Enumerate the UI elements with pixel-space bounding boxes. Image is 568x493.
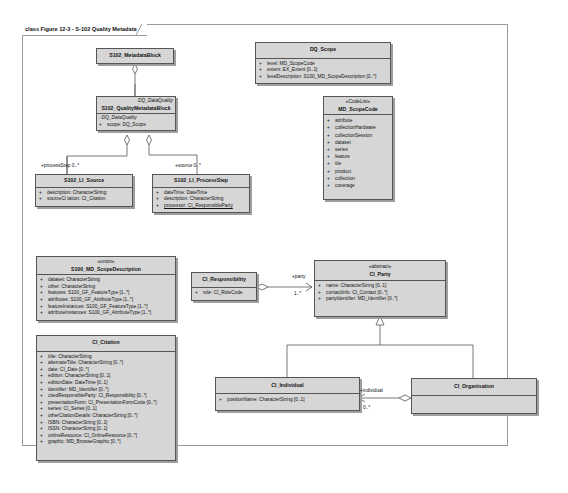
class-ci-responsibility[interactable]: CI_Responsibility +role: CI_RoleCode <box>191 272 257 301</box>
visibility-marker: + <box>327 139 335 146</box>
class-s102-li-processstep[interactable]: S102_LI_ProcessStep +dateTime: DateTime … <box>152 174 250 213</box>
class-attribute: +featureInstances: S100_GF_FeatureType [… <box>40 304 172 311</box>
attribute-text: role: CI_RoleCode <box>203 290 242 295</box>
visibility-marker: + <box>156 196 164 203</box>
attribute-text: processor: CI_ResponsibleParty <box>164 203 233 208</box>
class-ci-organisation[interactable]: CI_Organisation <box>411 378 537 414</box>
visibility-marker: + <box>327 153 335 160</box>
attribute-text: level: MD_ScopeCode <box>267 61 315 66</box>
visibility-marker: + <box>259 74 267 81</box>
class-s100-md-scopedescription[interactable]: «union» S100_MD_ScopeDescription +datase… <box>36 256 176 321</box>
class-attribute: +dataset: CharacterString <box>40 277 172 284</box>
visibility-marker: + <box>40 387 48 394</box>
attribute-text: positionName: CharacterString [0..1] <box>227 397 305 402</box>
attribute-text: title: CharacterString <box>48 354 92 359</box>
class-s102-li-source[interactable]: S102_LI_Source +description: CharacterSt… <box>35 174 133 207</box>
class-attribute: +alternateTitle: CharacterString [0..*] <box>40 360 172 367</box>
class-name: CI_Individual <box>271 382 303 388</box>
class-name: MD_ScopeCode <box>326 106 390 113</box>
class-md-scopecode[interactable]: «CodeList» MD_ScopeCode +attribute +coll… <box>323 96 393 200</box>
enum-literal: +collectionSession <box>327 132 389 139</box>
visibility-marker: + <box>327 160 335 167</box>
attribute-text: attribute <box>335 118 352 123</box>
attribute-text: name: CharacterString [0..1] <box>326 283 386 288</box>
attribute-text: editionDate: DateTime [0..1] <box>48 380 108 385</box>
class-attribute: +attributes: S100_GF_AttributeType [1..*… <box>40 297 172 304</box>
visibility-marker: + <box>327 132 335 139</box>
class-ci-individual[interactable]: CI_Individual +positionName: CharacterSt… <box>215 377 360 411</box>
visibility-marker: + <box>39 190 47 197</box>
class-name: S102_QualityMetadataBlock <box>99 105 173 112</box>
class-attribute: +scope: DQ_Scope <box>99 122 173 129</box>
attribute-text: collectionHardware <box>335 125 376 130</box>
visibility-marker: + <box>40 406 48 413</box>
enum-literal: +series <box>327 146 389 153</box>
attribute-text: contactInfo: CI_Contact [0..*] <box>326 290 387 295</box>
attribute-text: dataset <box>335 140 351 145</box>
attribute-text: features: S100_GF_FeatureType [1..*] <box>48 290 129 295</box>
multiplicity-label-party: 1..* <box>294 291 301 296</box>
attribute-text: description: CharacterString <box>164 196 223 201</box>
visibility-marker: + <box>327 182 335 189</box>
enum-literal: +tile <box>327 160 389 167</box>
class-attribute: +extent: EX_Extent [0..1] <box>259 67 387 74</box>
enum-literal: +collectionHardware <box>327 124 389 131</box>
class-attribute: +dateTime: DateTime <box>156 190 246 197</box>
class-name: S102_MetadataBlock <box>109 52 161 58</box>
class-attribute: +editionDate: DateTime [0..1] <box>40 380 172 387</box>
visibility-marker: + <box>40 297 48 304</box>
visibility-marker: + <box>40 426 48 433</box>
class-attribute: +graphic: MD_BrowseGraphic [0..*] <box>40 439 172 446</box>
role-label-individual: +individual <box>360 388 383 393</box>
attribute-text: collection <box>335 176 355 181</box>
role-label-party: +party <box>292 274 305 279</box>
class-attribute: +features: S100_GF_FeatureType [1..*] <box>40 290 172 297</box>
class-attribute: +presentationForm: CI_PresentationFormCo… <box>40 400 172 407</box>
class-attribute: +sourceCi tation: CI_Citation <box>39 196 129 203</box>
class-name: S102_LI_Source <box>64 177 104 183</box>
visibility-marker: + <box>318 283 326 290</box>
multiplicity-label-individual: 0..* <box>363 405 370 410</box>
class-s102-qualitymetadatablock[interactable]: DQ_DataQuality S102_QualityMetadataBlock… <box>96 96 176 131</box>
visibility-marker: + <box>327 117 335 124</box>
visibility-marker: + <box>99 122 107 129</box>
attribute-text: dataset: CharacterString <box>48 277 100 282</box>
class-name: CI_Organisation <box>454 383 494 389</box>
stereotype-label: «abstract» <box>317 264 443 271</box>
visibility-marker: + <box>40 310 48 317</box>
attribute-text: product <box>335 169 351 174</box>
class-s102-metadatablock[interactable]: S102_MetadataBlock <box>96 48 174 64</box>
visibility-marker: + <box>40 393 48 400</box>
role-label-source: +source 0..* <box>175 163 201 168</box>
visibility-marker: + <box>195 290 203 297</box>
attribute-text: ISBN: CharacterString [0..1] <box>48 420 107 425</box>
class-name: CI_Party <box>317 271 443 278</box>
class-attribute: +role: CI_RoleCode <box>195 290 253 297</box>
class-name: CI_Citation <box>92 339 119 345</box>
visibility-marker: + <box>327 168 335 175</box>
visibility-marker: + <box>40 380 48 387</box>
class-attribute: +positionName: CharacterString [0..1] <box>219 397 356 404</box>
class-attribute: +processor: CI_ResponsibleParty <box>156 203 246 210</box>
visibility-marker: + <box>40 354 48 361</box>
class-attribute: +citedResponsibleParty: CI_Responsibilit… <box>40 393 172 400</box>
class-attribute: +ISSN: CharacterString [0..1] <box>40 426 172 433</box>
class-dq-scope[interactable]: DQ_Scope +level: MD_ScopeCode +extent: E… <box>255 42 391 84</box>
enum-literal: +collection <box>327 175 389 182</box>
attribute-text: attributeInstances: S100_GF_AttributeTyp… <box>48 310 151 315</box>
visibility-marker: + <box>40 420 48 427</box>
class-attribute: +attributeInstances: S100_GF_AttributeTy… <box>40 310 172 317</box>
attribute-text: partyIdentifier: MD_Identifier [0..*] <box>326 296 397 301</box>
stereotype-label: «CodeList» <box>326 99 390 106</box>
visibility-marker: + <box>156 203 164 210</box>
attribute-text: series: CI_Series [0..1] <box>48 406 97 411</box>
class-ci-citation[interactable]: CI_Citation +title: CharacterString +alt… <box>36 335 176 461</box>
enum-literal: +coverage <box>327 182 389 189</box>
enum-literal: +product <box>327 168 389 175</box>
visibility-marker: + <box>40 433 48 440</box>
class-attribute: +description: CharacterString <box>156 196 246 203</box>
attribute-text: alternateTitle: CharacterString [0..*] <box>48 360 123 365</box>
visibility-marker: + <box>327 146 335 153</box>
class-ci-party[interactable]: «abstract» CI_Party +name: CharacterStri… <box>314 260 446 317</box>
attribute-text: onlineResource: CI_OnlineResource [0..*] <box>48 433 137 438</box>
